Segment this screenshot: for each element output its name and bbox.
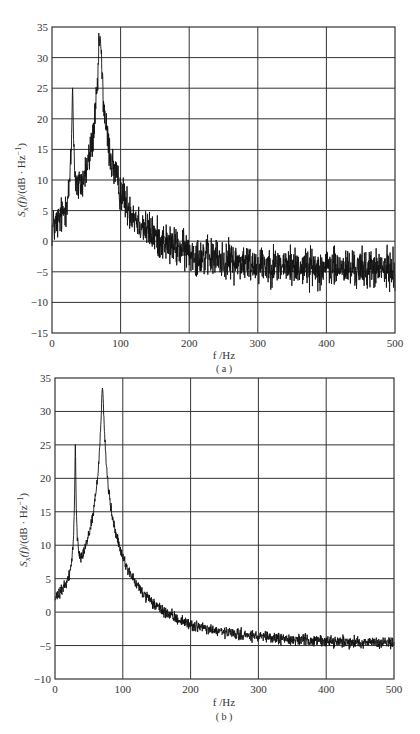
x-tick-label: 400 (318, 337, 335, 349)
y-tick-label: 35 (40, 372, 52, 384)
y-tick-label: 5 (43, 205, 49, 217)
x-tick-label: 100 (112, 337, 129, 349)
chart-a-xlabel: f /Hz (213, 349, 235, 361)
x-tick-label: 100 (115, 683, 132, 695)
chart-b: −10−505101520253035 0100200300400500 Sx(… (16, 372, 403, 723)
chart-a-ylabel: Sx(f)/(dB · Hz−1) (14, 143, 30, 217)
y-tick-label: 30 (40, 405, 52, 417)
chart-b-x-ticks: 0100200300400500 (52, 683, 403, 695)
y-tick-label: −10 (34, 673, 52, 685)
x-tick-label: 400 (318, 683, 335, 695)
y-tick-label: −5 (39, 640, 51, 652)
y-tick-label: 35 (37, 21, 49, 33)
chart-a-trace (52, 33, 395, 293)
chart-a-y-ticks: −15−10−505101520253035 (31, 21, 49, 339)
y-tick-label: −5 (36, 266, 48, 278)
y-tick-label: −10 (31, 296, 49, 308)
chart-a: −15−10−505101520253035 0100200300400500 … (14, 21, 404, 375)
x-tick-label: 300 (250, 683, 267, 695)
figure: −15−10−505101520253035 0100200300400500 … (0, 0, 420, 734)
chart-a-caption: ( a ) (216, 363, 232, 375)
chart-a-x-ticks: 0100200300400500 (49, 337, 404, 349)
x-tick-label: 500 (386, 683, 403, 695)
chart-b-xlabel: f /Hz (213, 696, 235, 708)
y-tick-label: 0 (43, 235, 49, 247)
y-tick-label: 25 (37, 82, 49, 94)
chart-b-trace (55, 388, 394, 649)
x-tick-label: 0 (49, 337, 55, 349)
y-tick-label: 10 (37, 174, 49, 186)
y-tick-label: 20 (40, 472, 52, 484)
chart-b-ylabel: Sx(f)/(dB · Hz−1) (16, 493, 32, 567)
x-tick-label: 200 (181, 337, 198, 349)
y-tick-label: 15 (37, 143, 49, 155)
y-tick-label: 15 (40, 506, 52, 518)
x-tick-label: 0 (52, 683, 58, 695)
y-tick-label: 25 (40, 439, 52, 451)
y-tick-label: 10 (40, 539, 52, 551)
x-tick-label: 300 (250, 337, 267, 349)
x-tick-label: 500 (387, 337, 404, 349)
chart-b-y-ticks: −10−505101520253035 (34, 372, 52, 685)
y-tick-label: −15 (31, 327, 49, 339)
chart-a-grid (52, 27, 395, 333)
y-tick-label: 5 (46, 573, 52, 585)
y-tick-label: 20 (37, 113, 49, 125)
x-tick-label: 200 (182, 683, 199, 695)
chart-b-caption: ( b ) (216, 711, 233, 723)
y-tick-label: 30 (37, 52, 49, 64)
y-tick-label: 0 (46, 606, 52, 618)
